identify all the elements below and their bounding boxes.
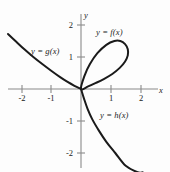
x-tick-label-pos2: 2	[139, 93, 143, 103]
y-tick-label-pos1: 1	[69, 52, 73, 62]
y-axis-label: y	[83, 10, 88, 20]
curve-label-f: y = f(x)	[96, 27, 123, 37]
y-tick-label-neg1: -1	[66, 116, 73, 126]
x-tick-label-pos1: 1	[109, 93, 113, 103]
y-tick-label-neg2: -2	[66, 148, 73, 158]
x-tick-label-neg2: -2	[18, 93, 25, 103]
x-tick-label-neg1: -1	[47, 93, 54, 103]
curve-f	[81, 41, 128, 90]
x-axis-label: x	[158, 85, 163, 95]
graph-figure: -2 -1 1 2 2 1 -1 -2 x y y = f(x) y = g(x…	[0, 0, 170, 172]
curve-label-g: y = g(x)	[31, 46, 60, 56]
y-tick-label-pos2: 2	[69, 20, 73, 30]
curve-label-h: y = h(x)	[100, 110, 129, 120]
coordinate-plot: -2 -1 1 2 2 1 -1 -2 x y	[0, 0, 170, 172]
